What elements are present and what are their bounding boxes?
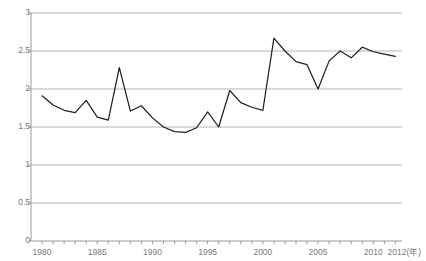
x-axis-tick-label: 1985 — [84, 247, 110, 257]
x-axis-tick-label: 1990 — [139, 247, 165, 257]
x-axis-tick-label: 1980 — [29, 247, 55, 257]
x-axis-unit-label: 2012(年) — [381, 247, 426, 257]
x-axis-tick-label: 2000 — [250, 247, 276, 257]
x-axis-tick-label: 1995 — [195, 247, 221, 257]
x-axis-tick-label: 2005 — [305, 247, 331, 257]
